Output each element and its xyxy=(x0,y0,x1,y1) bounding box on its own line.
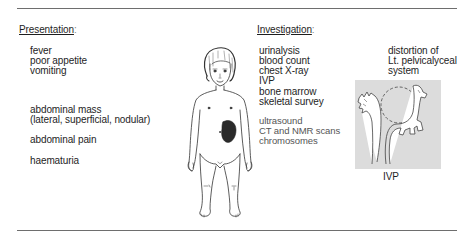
investigation-item-skeletal-survey: skeletal survey xyxy=(259,97,324,107)
ivp-caption: IVP xyxy=(383,172,399,182)
bottom-divider xyxy=(17,230,457,231)
investigation-heading-label: Investigation xyxy=(257,24,312,35)
investigation-item-ivp: IVP xyxy=(259,76,275,86)
ivp-radiograph xyxy=(355,80,441,169)
top-divider xyxy=(17,8,457,9)
child-figure-illustration xyxy=(180,44,258,220)
presentation-item-mass-details: (lateral, superficial, nodular) xyxy=(30,115,150,125)
investigation-heading: Investigation: xyxy=(257,24,315,36)
investigation-item-chromosomes: chromosomes xyxy=(259,136,318,146)
presentation-heading-label: Presentation xyxy=(19,24,74,35)
presentation-item-vomiting: vomiting xyxy=(30,66,66,76)
presentation-item-haematuria: haematuria xyxy=(30,156,79,166)
ivp-annotation-line-3: system xyxy=(388,66,419,76)
presentation-item-abdominal-pain: abdominal pain xyxy=(30,135,96,145)
presentation-heading: Presentation: xyxy=(19,24,77,36)
ivp-kidney-illustration xyxy=(355,80,441,169)
